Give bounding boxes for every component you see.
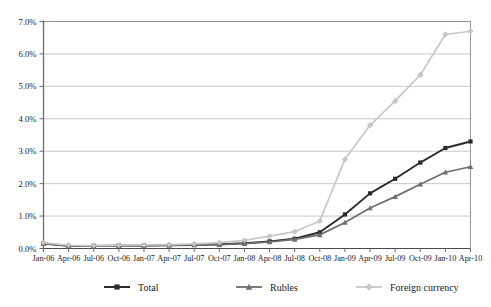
legend-item-rubles[interactable]: Rubles (236, 282, 298, 293)
series-rubles (41, 164, 474, 248)
series-foreign-currency (41, 29, 473, 249)
data-point-marker (468, 29, 473, 34)
data-point-marker (468, 139, 472, 143)
x-axis-tick-label: Apr-07 (157, 254, 180, 263)
data-point-marker (366, 284, 372, 290)
x-axis-tick-label: Apr-06 (57, 254, 80, 263)
legend-item-total[interactable]: Total (104, 282, 159, 293)
x-axis-tick-label: Jul-06 (84, 254, 104, 263)
data-point-marker (443, 146, 447, 150)
x-axis-tick-label: Apr-09 (358, 254, 381, 263)
x-axis-tick-label: Jan-09 (334, 254, 356, 263)
x-axis-tick-label: Oct-09 (409, 254, 432, 263)
x-axis-tick-label: Jul-08 (284, 254, 304, 263)
chart-container: 0.0%1.0%2.0%3.0%4.0%5.0%6.0%7.0%Jan-06Ap… (0, 0, 491, 307)
legend-label: Foreign currency (390, 282, 459, 293)
x-axis-tick-label: Oct-07 (208, 254, 231, 263)
y-axis-tick-label: 3.0% (19, 146, 37, 156)
x-axis-tick-label: Apr-08 (258, 254, 281, 263)
y-axis-tick-label: 4.0% (19, 114, 37, 124)
legend-item-foreign-currency[interactable]: Foreign currency (356, 282, 459, 293)
series-total (41, 139, 472, 248)
y-axis-tick-label: 2.0% (19, 179, 37, 189)
data-point-marker (114, 284, 119, 289)
line-chart: 0.0%1.0%2.0%3.0%4.0%5.0%6.0%7.0%Jan-06Ap… (0, 0, 491, 307)
x-axis-tick-label: Jan-10 (434, 254, 456, 263)
y-axis-tick-label: 7.0% (19, 17, 37, 27)
data-point-marker (343, 212, 347, 216)
x-axis-tick-label: Jan-06 (33, 254, 55, 263)
x-axis-tick-label: Jul-07 (184, 254, 204, 263)
x-axis-tick-label: Jan-08 (234, 254, 256, 263)
data-point-marker (393, 177, 397, 181)
data-point-marker (267, 233, 272, 238)
series-line (44, 141, 471, 245)
legend-label: Rubles (270, 282, 298, 293)
y-axis-tick-label: 1.0% (19, 211, 37, 221)
data-point-marker (292, 229, 297, 234)
series-line (44, 167, 471, 246)
x-axis-tick-label: Apr-10 (459, 254, 482, 263)
data-point-marker (368, 191, 372, 195)
x-axis-tick-label: Jan-07 (133, 254, 155, 263)
x-axis-tick-label: Jul-09 (385, 254, 405, 263)
legend-label: Total (138, 282, 159, 293)
y-axis-tick-label: 0.0% (19, 244, 37, 254)
x-axis-tick-label: Oct-08 (308, 254, 331, 263)
y-axis-tick-label: 5.0% (19, 81, 37, 91)
series-line (44, 31, 471, 245)
data-point-marker (418, 160, 422, 164)
data-point-marker (317, 218, 322, 223)
x-axis-tick-label: Oct-06 (107, 254, 130, 263)
y-axis-tick-label: 6.0% (19, 49, 37, 59)
